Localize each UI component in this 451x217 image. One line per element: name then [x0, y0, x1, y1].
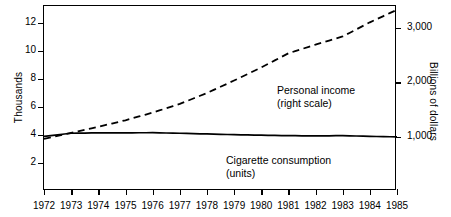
x-tick-label: 1981 — [273, 200, 303, 211]
x-tick-mark — [207, 189, 208, 195]
left-tick-mark — [38, 163, 44, 164]
annotation-cigarette-consumption: Cigarette consumption (units) — [226, 154, 331, 179]
right-tick-label: 3,000 — [407, 21, 432, 32]
x-tick-mark — [288, 189, 289, 195]
right-tick-label: 1,000 — [407, 130, 432, 141]
annotation-personal-income-line2: (right scale) — [277, 97, 355, 110]
left-tick-mark — [38, 79, 44, 80]
cigarette-consumption-line — [44, 133, 397, 137]
annotation-personal-income: Personal income (right scale) — [277, 84, 355, 109]
x-tick-label: 1974 — [83, 200, 113, 211]
x-tick-label: 1973 — [56, 200, 86, 211]
left-tick-mark — [38, 135, 44, 136]
x-tick-label: 1978 — [192, 200, 222, 211]
x-tick-mark — [153, 189, 154, 195]
right-tick-label: 2,000 — [407, 75, 432, 86]
left-tick-label: 2 — [10, 156, 36, 167]
x-tick-label: 1980 — [246, 200, 276, 211]
x-tick-label: 1985 — [382, 200, 412, 211]
right-tick-mark — [395, 28, 401, 29]
plot-area: 12108642 3,0002,0001,000 197219731974197… — [43, 5, 396, 190]
right-tick-mark — [395, 82, 401, 83]
left-tick-label: 8 — [10, 72, 36, 83]
chart-figure: Thousands Billions of dollars 12108642 3… — [0, 0, 451, 217]
left-tick-label: 10 — [10, 44, 36, 55]
x-tick-label: 1984 — [355, 200, 385, 211]
right-tick-mark — [395, 137, 401, 138]
x-tick-mark — [44, 189, 45, 195]
x-tick-mark — [397, 189, 398, 195]
personal-income-line — [44, 10, 397, 139]
left-tick-label: 4 — [10, 128, 36, 139]
annotation-cigarette-line2: (units) — [226, 167, 331, 180]
left-tick-mark — [38, 23, 44, 24]
annotation-personal-income-line1: Personal income — [277, 84, 355, 97]
x-tick-mark — [343, 189, 344, 195]
x-tick-label: 1982 — [301, 200, 331, 211]
x-tick-label: 1975 — [111, 200, 141, 211]
x-tick-label: 1979 — [219, 200, 249, 211]
x-tick-mark — [261, 189, 262, 195]
left-tick-mark — [38, 107, 44, 108]
x-tick-label: 1972 — [29, 200, 59, 211]
left-tick-mark — [38, 51, 44, 52]
x-tick-mark — [98, 189, 99, 195]
x-tick-mark — [126, 189, 127, 195]
x-tick-mark — [370, 189, 371, 195]
left-tick-label: 6 — [10, 100, 36, 111]
left-tick-label: 12 — [10, 16, 36, 27]
annotation-cigarette-line1: Cigarette consumption — [226, 154, 331, 167]
x-tick-label: 1983 — [328, 200, 358, 211]
x-tick-mark — [71, 189, 72, 195]
x-tick-mark — [180, 189, 181, 195]
x-tick-label: 1976 — [138, 200, 168, 211]
x-tick-mark — [234, 189, 235, 195]
x-tick-label: 1977 — [165, 200, 195, 211]
x-tick-mark — [316, 189, 317, 195]
